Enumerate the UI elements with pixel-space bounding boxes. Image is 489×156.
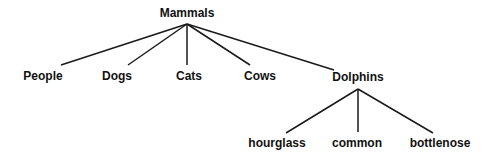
node-bottlenose: bottlenose xyxy=(410,137,471,149)
node-hourglass: hourglass xyxy=(248,137,305,149)
node-people: People xyxy=(23,70,62,82)
edge-mammals-people xyxy=(61,24,187,65)
node-dogs: Dogs xyxy=(102,70,132,82)
edge-dolphins-hourglass xyxy=(286,89,358,133)
edge-mammals-dogs xyxy=(128,24,187,65)
node-cats: Cats xyxy=(176,70,202,82)
node-mammals: Mammals xyxy=(160,7,215,19)
node-dolphins: Dolphins xyxy=(332,71,383,83)
node-common: common xyxy=(332,137,382,149)
edge-dolphins-bottlenose xyxy=(358,89,433,133)
edge-mammals-dolphins xyxy=(187,24,334,70)
node-cows: Cows xyxy=(244,70,276,82)
edge-mammals-cows xyxy=(187,24,250,65)
